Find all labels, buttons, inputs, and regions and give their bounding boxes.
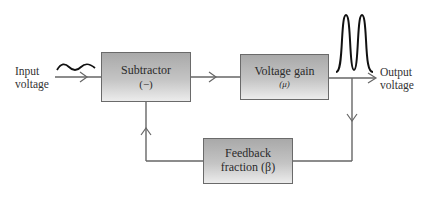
subtractor-title: Subtractor	[121, 64, 171, 78]
input-voltage-label: Input voltage	[15, 65, 49, 91]
input-sine-wave-icon	[57, 64, 95, 70]
voltage-gain-block: Voltage gain (μ)	[240, 54, 329, 100]
feedback-symbol: fraction (β)	[221, 161, 275, 175]
input-label-line2: voltage	[15, 78, 49, 91]
output-label-line2: voltage	[380, 79, 414, 92]
voltage-gain-symbol: (μ)	[279, 79, 290, 89]
voltage-gain-title: Voltage gain	[254, 65, 314, 79]
output-label-line1: Output	[380, 66, 414, 79]
feedback-title: Feedback	[225, 147, 271, 161]
feedback-amplifier-diagram: Input voltage Output voltage Subtractor …	[0, 0, 424, 199]
feedback-fraction-block: Feedback fraction (β)	[203, 138, 293, 184]
output-voltage-label: Output voltage	[380, 66, 414, 92]
output-pulse-wave-icon	[336, 15, 373, 72]
subtractor-block: Subtractor (−)	[101, 52, 191, 102]
input-label-line1: Input	[15, 65, 49, 78]
subtractor-symbol: (−)	[139, 78, 153, 91]
